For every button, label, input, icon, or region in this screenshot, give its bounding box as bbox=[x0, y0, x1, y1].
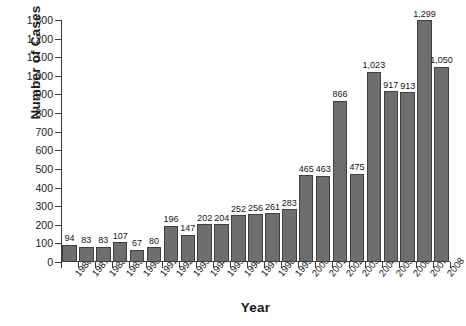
y-axis-tick-mark bbox=[55, 113, 61, 114]
y-axis-tick-label: 1,200 bbox=[27, 34, 53, 44]
x-axis-tick-mark bbox=[332, 262, 333, 268]
bar[interactable] bbox=[130, 250, 145, 262]
bar-group: 196 bbox=[164, 20, 179, 262]
x-axis-tick-mark bbox=[162, 262, 163, 268]
bar[interactable] bbox=[147, 247, 162, 262]
bar-group: 94 bbox=[62, 20, 77, 262]
bar-group: 1,050 bbox=[434, 20, 449, 262]
bar[interactable] bbox=[248, 214, 263, 262]
bar-value-label: 252 bbox=[231, 205, 246, 214]
x-axis-tick-mark bbox=[213, 262, 214, 268]
bar-group: 256 bbox=[248, 20, 263, 262]
bar-chart: Number of Cases 010020030040050060070080… bbox=[0, 0, 466, 326]
y-axis-tick-mark bbox=[55, 150, 61, 151]
bar[interactable] bbox=[265, 213, 280, 262]
y-axis-tick-mark bbox=[55, 206, 61, 207]
x-axis-tick-mark bbox=[146, 262, 147, 268]
y-axis-tick-mark bbox=[55, 225, 61, 226]
bar[interactable] bbox=[434, 67, 449, 262]
bar[interactable] bbox=[400, 92, 415, 262]
bar-group: 866 bbox=[333, 20, 348, 262]
bar-group: 80 bbox=[147, 20, 162, 262]
x-axis-tick-mark bbox=[450, 262, 451, 268]
bar[interactable] bbox=[231, 215, 246, 262]
bar[interactable] bbox=[96, 247, 111, 262]
plot-area: 9419868319878319881071989671990801991196… bbox=[61, 20, 450, 262]
x-axis-tick-mark bbox=[129, 262, 130, 268]
bar-value-label: 256 bbox=[248, 204, 263, 213]
bar[interactable] bbox=[299, 175, 314, 262]
bar-value-label: 463 bbox=[316, 165, 331, 174]
y-axis-tick-label: 1,100 bbox=[27, 52, 53, 62]
y-axis-tick-mark bbox=[55, 39, 61, 40]
x-axis-tick-mark bbox=[281, 262, 282, 268]
x-axis-tick-mark bbox=[264, 262, 265, 268]
bar[interactable] bbox=[181, 235, 196, 262]
x-axis-tick-mark bbox=[349, 262, 350, 268]
bar-group: 67 bbox=[130, 20, 145, 262]
x-axis-title: Year bbox=[61, 300, 450, 315]
bar[interactable] bbox=[367, 72, 382, 262]
y-axis-tick-label: 1,000 bbox=[27, 71, 53, 81]
y-axis-tick-mark bbox=[55, 188, 61, 189]
x-axis-tick-mark bbox=[298, 262, 299, 268]
y-axis-tick-label: 400 bbox=[35, 183, 53, 193]
bar[interactable] bbox=[79, 247, 94, 262]
y-axis-tick-mark bbox=[55, 76, 61, 77]
bar-value-label: 465 bbox=[299, 165, 314, 174]
y-axis-tick-label: 900 bbox=[35, 89, 53, 99]
y-axis-tick-mark bbox=[55, 243, 61, 244]
bar-value-label: 67 bbox=[132, 239, 142, 248]
x-axis-tick-mark bbox=[382, 262, 383, 268]
y-axis-tick-label: 100 bbox=[35, 238, 53, 248]
y-axis-tick-label: 300 bbox=[35, 201, 53, 211]
x-axis-tick-mark bbox=[230, 262, 231, 268]
bar[interactable] bbox=[113, 242, 128, 262]
bar[interactable] bbox=[316, 176, 331, 262]
bar-value-label: 913 bbox=[400, 82, 415, 91]
bar-value-label: 80 bbox=[149, 237, 159, 246]
y-axis-tick-label: 500 bbox=[35, 164, 53, 174]
y-axis-tick-mark bbox=[55, 20, 61, 21]
x-axis-tick-mark bbox=[112, 262, 113, 268]
bar-group: 465 bbox=[299, 20, 314, 262]
bar[interactable] bbox=[350, 174, 365, 262]
bar-value-label: 83 bbox=[98, 236, 108, 245]
y-axis-tick-labels: 01002003004005006007008009001,0001,1001,… bbox=[0, 0, 53, 326]
bar-group: 107 bbox=[113, 20, 128, 262]
bar-group: 147 bbox=[181, 20, 196, 262]
bar[interactable] bbox=[197, 224, 212, 262]
bar-value-label: 1,023 bbox=[363, 61, 386, 70]
bar-group: 204 bbox=[214, 20, 229, 262]
bar-value-label: 475 bbox=[349, 163, 364, 172]
bar[interactable] bbox=[384, 91, 399, 262]
bar-value-label: 261 bbox=[265, 203, 280, 212]
y-axis-tick-mark bbox=[55, 262, 61, 263]
bar-group: 1,023 bbox=[367, 20, 382, 262]
bar-value-label: 1,299 bbox=[413, 10, 436, 19]
bar[interactable] bbox=[282, 209, 297, 262]
x-axis-tick-mark bbox=[61, 262, 62, 268]
y-axis-tick-label: 1,300 bbox=[27, 15, 53, 25]
y-axis-tick-mark bbox=[55, 169, 61, 170]
bar-value-label: 196 bbox=[163, 215, 178, 224]
x-axis-tick-mark bbox=[179, 262, 180, 268]
bar-value-label: 866 bbox=[333, 90, 348, 99]
x-axis-tick-mark bbox=[315, 262, 316, 268]
x-axis-tick-mark bbox=[247, 262, 248, 268]
bar-group: 913 bbox=[400, 20, 415, 262]
bar[interactable] bbox=[333, 101, 348, 262]
y-axis-tick-label: 200 bbox=[35, 220, 53, 230]
x-axis-tick-mark bbox=[95, 262, 96, 268]
bar-group: 252 bbox=[231, 20, 246, 262]
x-axis-tick-mark bbox=[433, 262, 434, 268]
bar[interactable] bbox=[164, 226, 179, 262]
bar-value-label: 107 bbox=[113, 232, 128, 241]
y-axis-tick-mark bbox=[55, 57, 61, 58]
bar[interactable] bbox=[214, 224, 229, 262]
y-axis-tick-mark bbox=[55, 132, 61, 133]
bar[interactable] bbox=[62, 245, 77, 262]
bar-group: 202 bbox=[197, 20, 212, 262]
bar-value-label: 147 bbox=[180, 224, 195, 233]
y-axis-tick-label: 600 bbox=[35, 145, 53, 155]
